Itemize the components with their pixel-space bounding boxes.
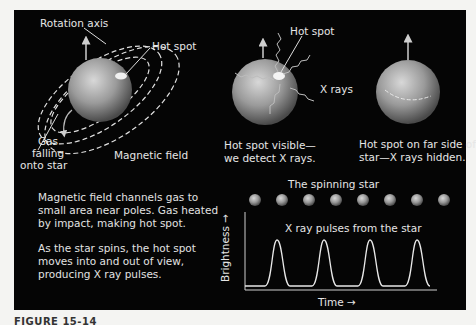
label-rotation-axis: Rotation axis <box>40 17 108 29</box>
label-gas-2: falling <box>30 147 66 159</box>
figure-caption: FIGURE 15-14 <box>14 316 97 325</box>
hot-spot-2 <box>273 72 285 80</box>
label-gas-1: Gas <box>30 135 66 147</box>
label-hot-spot-1: Hot spot <box>152 40 196 52</box>
spinning-star-title: The spinning star <box>288 178 379 190</box>
star-sphere-2 <box>232 59 298 125</box>
label-x-rays: X rays <box>320 83 353 95</box>
label-hot-spot-2: Hot spot <box>290 25 334 37</box>
explanation-para2-line2: moves into and out of view, <box>38 255 184 268</box>
chart-x-label: Time → <box>318 296 356 308</box>
panel3-caption-line1: Hot spot on far side of <box>359 138 476 150</box>
hot-spot-1 <box>115 73 127 80</box>
chart-y-label: Brightness → <box>219 214 231 282</box>
label-gas-3: onto star <box>20 159 67 171</box>
spinning-star-row <box>249 194 450 206</box>
panel2-caption-line1: Hot spot visible— <box>224 139 316 151</box>
explanation-para2-line1: As the star spins, the hot spot <box>38 242 196 255</box>
star-sphere-1 <box>68 58 132 122</box>
explanation-para1-line2: small area near poles. Gas heated <box>38 204 218 217</box>
explanation-para2-line3: producing X ray pulses. <box>38 268 162 281</box>
pulse-curve <box>245 240 430 286</box>
explanation-para1-line3: by impact, making hot spot. <box>38 217 186 230</box>
star-sphere-3 <box>376 60 440 124</box>
explanation-para1-line1: Magnetic field channels gas to <box>38 191 198 204</box>
panel3-caption-line2: star—X rays hidden. <box>359 151 466 163</box>
panel2-caption-line2: we detect X rays. <box>224 152 316 164</box>
label-magnetic-field: Magnetic field <box>114 149 188 161</box>
chart-title: X ray pulses from the star <box>285 222 422 234</box>
